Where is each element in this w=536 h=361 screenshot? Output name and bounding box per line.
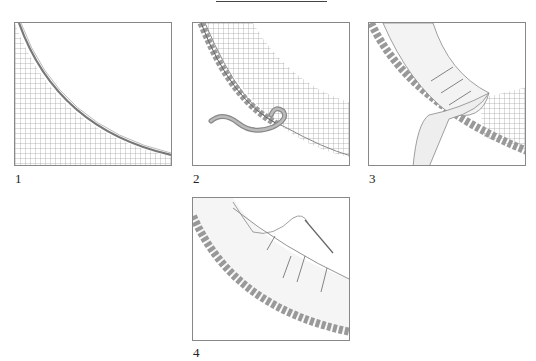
panel-label-3: 3 xyxy=(369,171,376,187)
panel-label-4: 4 xyxy=(193,345,200,361)
panel-2 xyxy=(192,22,350,166)
fabric-band-illustration xyxy=(369,23,526,166)
panel-1 xyxy=(14,22,172,166)
panel-4 xyxy=(192,197,350,341)
mesh-quarter-illustration xyxy=(15,23,172,166)
panel-label-1: 1 xyxy=(15,171,22,187)
panel-label-2: 2 xyxy=(193,171,200,187)
top-rule xyxy=(216,1,327,2)
braided-edge-illustration xyxy=(193,23,350,166)
stitched-band-illustration xyxy=(193,198,350,341)
panel-3 xyxy=(368,22,526,166)
